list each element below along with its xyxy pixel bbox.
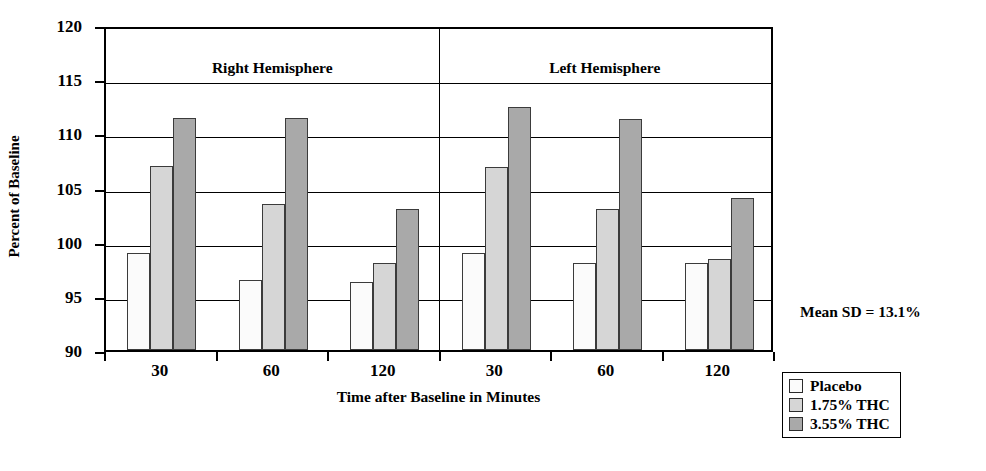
bar bbox=[173, 118, 196, 350]
x-axis-title: Time after Baseline in Minutes bbox=[104, 388, 773, 406]
x-axis-tick-label: 30 bbox=[125, 361, 195, 381]
legend-label-thc-175: 1.75% THC bbox=[810, 396, 890, 414]
x-axis-tick-mark bbox=[550, 352, 552, 361]
x-axis-tick-label: 120 bbox=[682, 361, 752, 381]
bar bbox=[485, 167, 508, 350]
y-axis-tick-mark bbox=[95, 135, 104, 137]
bar bbox=[731, 198, 754, 350]
chart-legend: Placebo 1.75% THC 3.55% THC bbox=[782, 372, 901, 438]
y-axis-tick-label: 105 bbox=[36, 181, 82, 198]
y-axis-tick-label: 110 bbox=[36, 126, 82, 143]
bar bbox=[508, 107, 531, 350]
y-axis-tick-mark bbox=[95, 244, 104, 246]
bar bbox=[462, 253, 485, 351]
legend-swatch-thc-175-icon bbox=[789, 398, 803, 412]
y-axis-tick-label: 115 bbox=[36, 72, 82, 89]
x-axis-tick-mark bbox=[773, 352, 775, 361]
bar bbox=[239, 280, 262, 350]
x-axis-tick-label: 60 bbox=[236, 361, 306, 381]
bar bbox=[262, 204, 285, 350]
x-axis-tick-mark bbox=[439, 352, 441, 361]
x-axis-tick-label: 60 bbox=[571, 361, 641, 381]
plot-area: Right Hemisphere Left Hemisphere bbox=[104, 27, 773, 352]
y-axis-tick-label: 90 bbox=[36, 343, 82, 360]
legend-swatch-placebo-icon bbox=[789, 379, 803, 393]
bar bbox=[685, 263, 708, 350]
panel-title-left-hemisphere: Left Hemisphere bbox=[439, 59, 772, 77]
y-axis-tick-label: 100 bbox=[36, 235, 82, 252]
bar bbox=[396, 209, 419, 350]
mean-sd-annotation: Mean SD = 13.1% bbox=[800, 303, 921, 321]
y-axis-tick-label: 95 bbox=[36, 289, 82, 306]
legend-swatch-thc-355-icon bbox=[789, 417, 803, 431]
bar bbox=[708, 259, 731, 350]
y-axis-tick-label: 120 bbox=[36, 18, 82, 35]
bar bbox=[127, 253, 150, 351]
y-axis-tick-mark bbox=[95, 190, 104, 192]
y-axis-tick-mark bbox=[95, 27, 104, 29]
x-axis-tick-mark bbox=[216, 352, 218, 361]
legend-item-thc-355[interactable]: 3.55% THC bbox=[789, 414, 890, 433]
x-axis-tick-mark bbox=[662, 352, 664, 361]
y-axis-title: Percent of Baseline bbox=[6, 97, 23, 297]
bar bbox=[596, 209, 619, 350]
x-axis-tick-mark bbox=[327, 352, 329, 361]
bar bbox=[150, 166, 173, 350]
bar bbox=[373, 263, 396, 350]
panel-title-right-hemisphere: Right Hemisphere bbox=[106, 59, 439, 77]
bar bbox=[573, 263, 596, 350]
panel-divider bbox=[439, 29, 440, 350]
y-axis-tick-mark bbox=[95, 81, 104, 83]
x-axis-tick-label: 30 bbox=[459, 361, 529, 381]
legend-item-placebo[interactable]: Placebo bbox=[789, 376, 890, 395]
legend-item-thc-175[interactable]: 1.75% THC bbox=[789, 395, 890, 414]
bar-chart-figure: Percent of Baseline 1201151101051009590 … bbox=[0, 0, 986, 471]
bar bbox=[619, 119, 642, 350]
legend-label-placebo: Placebo bbox=[810, 377, 862, 395]
y-axis-tick-mark bbox=[95, 298, 104, 300]
bar bbox=[350, 282, 373, 350]
x-axis-tick-label: 120 bbox=[348, 361, 418, 381]
y-axis-tick-mark bbox=[95, 352, 104, 354]
bar bbox=[285, 118, 308, 350]
x-axis-tick-mark bbox=[104, 352, 106, 361]
legend-label-thc-355: 3.55% THC bbox=[810, 415, 890, 433]
